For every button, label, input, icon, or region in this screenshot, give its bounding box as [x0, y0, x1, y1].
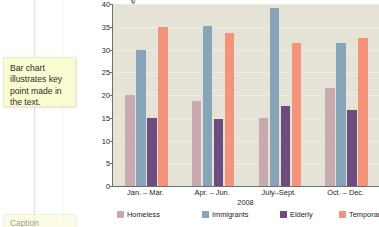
legend-swatch-icon — [202, 211, 209, 218]
bar-group — [313, 4, 379, 186]
plot-area — [112, 4, 379, 187]
bar-temporary — [358, 38, 368, 186]
bar-homeless — [259, 118, 269, 186]
bar-elderly — [281, 106, 291, 186]
legend-item-elderly[interactable]: Elderly — [280, 210, 313, 219]
bar-immigrants — [270, 8, 280, 186]
legend-label: Immigrants — [212, 210, 249, 219]
annotation-note-text: Bar chart illustrates key point made in … — [10, 63, 62, 107]
legend-label: Temporary — [349, 210, 379, 219]
legend-label: Homeless — [127, 210, 160, 219]
x-tick-label: Apr. – Jun. — [194, 188, 229, 197]
legend-label: Elderly — [290, 210, 313, 219]
legend-swatch-icon — [280, 211, 287, 218]
bar-immigrants — [336, 43, 346, 186]
bar-group — [113, 4, 180, 186]
bar-homeless — [125, 95, 135, 186]
bar-elderly — [347, 110, 357, 186]
y-tick-mark — [110, 186, 114, 187]
x-tick-label: Jan. – Mar. — [127, 188, 164, 197]
x-tick-label: July–Sept. — [262, 188, 297, 197]
annotation-note-key-point: Bar chart illustrates key point made in … — [3, 57, 76, 107]
bar-chart-figure: Percentage of Total Number 0510152025303… — [82, 0, 379, 227]
legend-item-homeless[interactable]: Homeless — [117, 210, 160, 219]
annotation-note-caption: Caption — [3, 214, 76, 227]
bar-elderly — [147, 118, 157, 186]
legend-item-immigrants[interactable]: Immigrants — [202, 210, 249, 219]
bar-temporary — [292, 43, 302, 186]
bar-homeless — [192, 101, 202, 186]
chart-legend: HomelessImmigrantsElderlyTemporary — [112, 210, 379, 224]
annotation-caption-text: Caption — [10, 218, 39, 227]
bar-homeless — [325, 88, 335, 186]
bar-elderly — [214, 119, 224, 186]
page-margin-rule-secondary — [62, 0, 64, 227]
bar-group — [247, 4, 314, 186]
legend-swatch-icon — [339, 211, 346, 218]
y-axis-tick-labels: 0510152025303540 — [90, 0, 110, 190]
legend-item-temporary[interactable]: Temporary — [339, 210, 379, 219]
page-margin-rule — [33, 0, 36, 227]
bar-temporary — [158, 27, 168, 186]
bar-immigrants — [203, 26, 213, 186]
legend-swatch-icon — [117, 211, 124, 218]
bar-group — [180, 4, 247, 186]
bar-immigrants — [136, 50, 146, 187]
bar-groups — [113, 4, 379, 186]
bar-temporary — [225, 33, 235, 186]
x-axis-title: 2008 — [112, 198, 379, 207]
x-tick-label: Oct. – Dec. — [327, 188, 364, 197]
